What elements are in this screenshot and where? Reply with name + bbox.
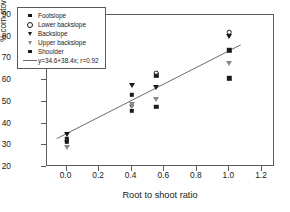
scatter-chart-figure: % corn stover that can be removed Root t… — [0, 0, 290, 212]
legend-glyph — [28, 32, 32, 36]
legend-item-label: Footslope — [38, 11, 66, 20]
x-tick-label: 0.2 — [83, 170, 113, 180]
legend-glyph — [28, 41, 32, 45]
legend-glyph — [23, 60, 37, 61]
legend-item: Upper backslope — [22, 38, 99, 47]
legend-marker-icon — [22, 41, 38, 45]
data-point — [154, 70, 159, 75]
legend-item-label: Upper backslope — [38, 38, 86, 47]
x-tick-mark — [261, 166, 262, 171]
legend-item-label: Backslope — [38, 29, 68, 38]
data-point — [153, 85, 159, 90]
y-tick-label: 80 — [0, 31, 11, 41]
legend-marker-icon — [22, 60, 38, 61]
x-tick-label: 0.6 — [148, 170, 178, 180]
legend-item: Shoulder — [22, 47, 99, 56]
data-point — [129, 93, 133, 97]
y-tick-label: 60 — [0, 74, 11, 84]
data-point — [64, 145, 70, 150]
data-point — [129, 83, 135, 88]
x-tick-mark — [228, 166, 229, 171]
legend-item: Lower backslope — [22, 20, 99, 29]
x-tick-mark — [196, 166, 197, 171]
legend-marker-icon — [22, 32, 38, 36]
legend-marker-icon — [22, 22, 38, 28]
legend-item-label: Lower backslope — [38, 20, 86, 29]
legend: FootslopeLower backslopeBackslopeUpper b… — [17, 7, 106, 69]
x-tick-label: 0.0 — [51, 170, 81, 180]
x-tick-mark — [98, 166, 99, 171]
data-point — [227, 76, 231, 80]
legend-item: Backslope — [22, 29, 99, 38]
legend-marker-icon — [22, 14, 38, 18]
data-point — [154, 104, 158, 108]
data-point — [129, 109, 133, 113]
x-tick-mark — [66, 166, 67, 171]
legend-item: Footslope — [22, 11, 99, 20]
x-tick-label: 1.2 — [246, 170, 276, 180]
legend-marker-icon — [22, 50, 38, 54]
y-tick-label: 70 — [0, 52, 11, 62]
y-tick-label: 40 — [0, 118, 11, 128]
x-tick-label: 0.8 — [181, 170, 211, 180]
x-axis-title: Root to shoot ratio — [46, 190, 274, 200]
data-point — [153, 97, 159, 102]
x-tick-label: 1.0 — [213, 170, 243, 180]
y-tick-label: 30 — [0, 139, 11, 149]
x-tick-mark — [131, 166, 132, 171]
legend-glyph — [28, 14, 32, 18]
data-point — [227, 48, 231, 52]
data-point — [226, 61, 232, 66]
legend-item-label: y=34.6+38.4x; r=0.92 — [38, 56, 99, 65]
data-point — [64, 140, 68, 144]
x-tick-label: 0.4 — [116, 170, 146, 180]
y-tick-mark — [41, 166, 46, 167]
y-tick-label: 90 — [0, 9, 11, 19]
y-tick-label: 50 — [0, 96, 11, 106]
y-tick-label: 20 — [0, 161, 11, 171]
data-point — [129, 102, 135, 107]
data-point — [226, 34, 232, 39]
legend-glyph — [28, 50, 32, 54]
legend-glyph — [27, 22, 33, 28]
legend-item-label: Shoulder — [38, 47, 64, 56]
data-point — [64, 132, 70, 137]
legend-item: y=34.6+38.4x; r=0.92 — [22, 56, 99, 65]
x-tick-mark — [163, 166, 164, 171]
